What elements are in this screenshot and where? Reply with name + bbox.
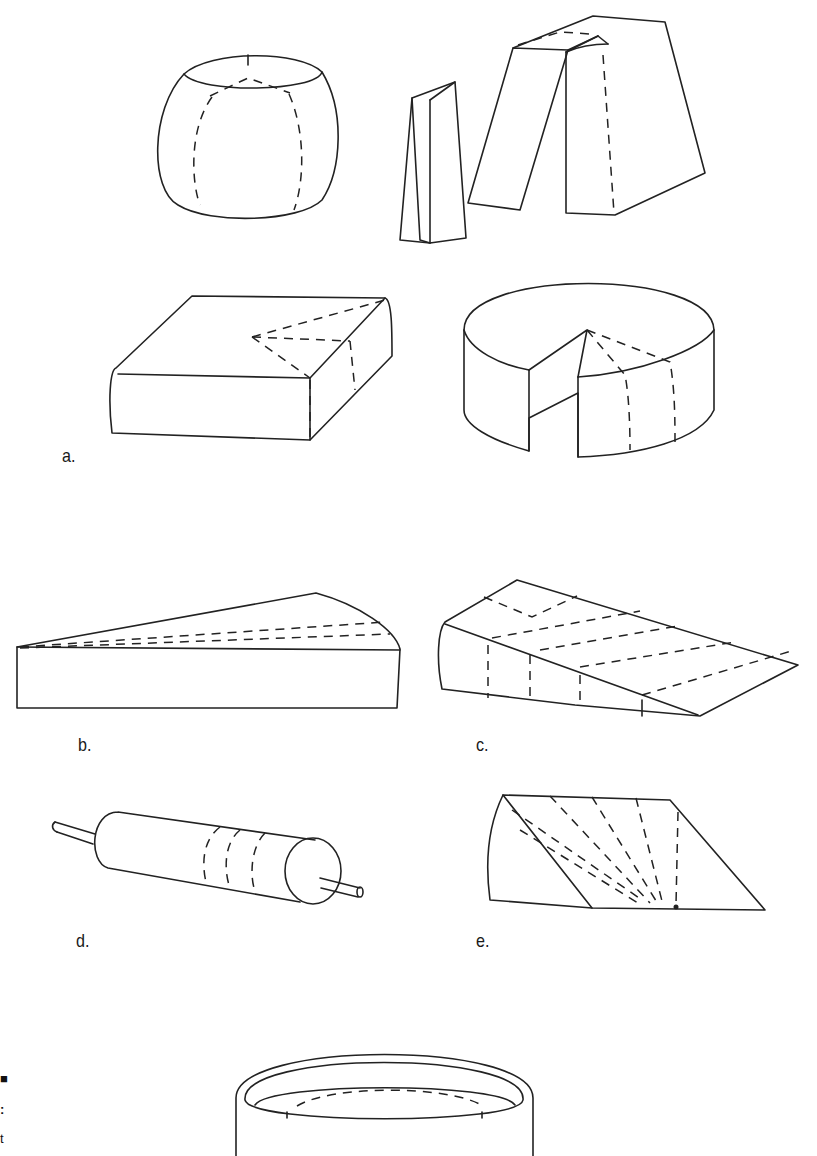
margin-fragment-colon: : <box>0 1103 4 1116</box>
label-panel-e: e. <box>476 930 489 952</box>
cheese-wheel-sliced <box>464 284 714 458</box>
log-cylinder <box>53 812 363 904</box>
angled-wedge-radial <box>488 795 765 910</box>
large-wedge-blocks <box>468 16 705 215</box>
label-panel-a: a. <box>62 445 75 467</box>
margin-fragment-letter: t <box>0 1132 4 1145</box>
sloped-wedge <box>438 580 798 716</box>
long-thin-wedge <box>17 593 400 708</box>
square-block-cheese <box>110 296 392 440</box>
round-ball-cheese <box>158 55 338 218</box>
margin-fragment-block: ■ <box>0 1072 8 1085</box>
label-panel-b: b. <box>78 734 91 756</box>
label-panel-c: c. <box>476 734 489 756</box>
drum-cylinder <box>236 1055 533 1156</box>
label-panel-d: d. <box>76 930 89 952</box>
thin-wedge-piece <box>400 82 466 243</box>
cheese-cutting-illustration <box>0 0 817 1156</box>
